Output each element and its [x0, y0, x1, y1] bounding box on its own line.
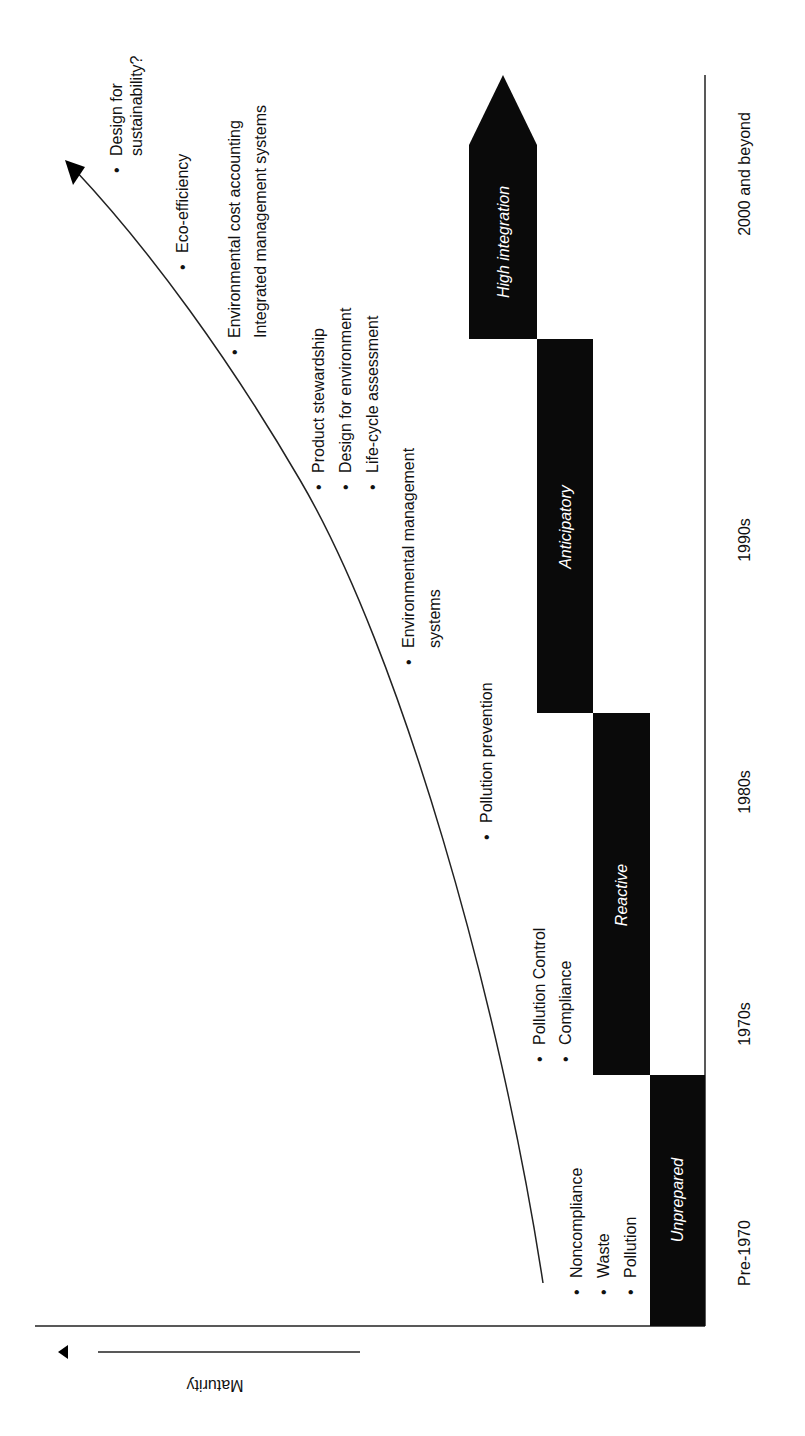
- practice-design-sustainability-line2: sustainability?: [128, 55, 145, 156]
- period-1990s: 1990s: [736, 518, 753, 562]
- practice-integrated-mgmt-systems: Integrated management systems: [252, 105, 269, 338]
- practice-design-for-environment: Design for environment: [337, 307, 354, 473]
- bullet-icon: •: [364, 484, 381, 490]
- maturity-arrow-icon: [58, 1345, 68, 1359]
- bullet-icon: •: [568, 1289, 585, 1295]
- practice-ems-line2: systems: [426, 589, 443, 648]
- bullet-icon: •: [557, 1056, 574, 1062]
- period-1980s: 1980s: [736, 770, 753, 814]
- maturity-diagram: Maturity Unprepared Reactive Anticipator…: [0, 0, 805, 1436]
- bullet-icon: •: [108, 167, 125, 173]
- practice-compliance: Compliance: [557, 960, 574, 1045]
- bullet-icon: •: [174, 264, 191, 270]
- stage-label-anticipatory: Anticipatory: [557, 484, 574, 570]
- practice-product-stewardship: Product stewardship: [310, 328, 327, 473]
- bullet-icon: •: [310, 484, 327, 490]
- practice-pollution-prevention: Pollution prevention: [478, 682, 495, 823]
- stage-label-unprepared: Unprepared: [669, 1157, 686, 1243]
- bullet-icon: •: [595, 1289, 612, 1295]
- practice-noncompliance: Noncompliance: [568, 1168, 585, 1278]
- practices-reactive: • Pollution Control • Compliance: [531, 928, 574, 1062]
- practice-pollution-control: Pollution Control: [531, 928, 548, 1045]
- bullet-icon: •: [226, 349, 243, 355]
- bullet-icon: •: [400, 659, 417, 665]
- bullet-icon: •: [531, 1056, 548, 1062]
- practice-env-cost-accounting: Environmental cost accounting: [226, 120, 243, 338]
- bullet-icon: •: [478, 834, 495, 840]
- practice-waste: Waste: [595, 1233, 612, 1278]
- bullet-icon: •: [622, 1289, 639, 1295]
- practice-design-sustainability-line1: Design for: [108, 82, 125, 156]
- period-2000-beyond: 2000 and beyond: [736, 112, 753, 236]
- maturity-label: Maturity: [187, 1377, 244, 1394]
- bullet-icon: •: [337, 484, 354, 490]
- practice-pollution: Pollution: [622, 1217, 639, 1278]
- practices-anticipatory: • Product stewardship • Design for envir…: [310, 307, 381, 490]
- practice-life-cycle-assessment: Life-cycle assessment: [364, 315, 381, 473]
- stage-label-high-integration: High integration: [495, 186, 512, 298]
- stage-label-reactive: Reactive: [613, 864, 630, 926]
- practice-ems-line1: Environmental management: [400, 447, 417, 648]
- curve-arrowhead-icon: [65, 160, 85, 185]
- practice-eco-efficiency: Eco-efficiency: [174, 154, 191, 253]
- period-pre-1970: Pre-1970: [736, 1220, 753, 1286]
- practices-unprepared: • Noncompliance • Waste • Pollution: [568, 1168, 639, 1295]
- period-1970s: 1970s: [736, 1002, 753, 1046]
